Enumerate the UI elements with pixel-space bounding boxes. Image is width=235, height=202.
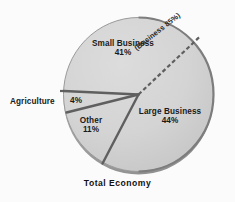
chart-title: Total Economy [0,178,235,188]
slice-name-large-business: Large Business [132,107,208,116]
slice-label-agriculture: Agriculture [10,97,55,106]
slice-name-other: Other [71,116,111,125]
pie-chart-figure: Small Business 41% Large Business 44% Ot… [0,0,235,202]
slice-pct-agriculture: 4% [70,96,82,105]
slice-pct-small-business: 41% [85,48,161,57]
slice-label-other: Other 11% [71,116,111,134]
slice-label-large-business: Large Business 44% [132,107,208,125]
slice-pct-other: 11% [71,125,111,134]
slice-pct-large-business: 44% [132,116,208,125]
